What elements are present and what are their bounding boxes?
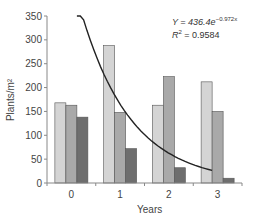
y-tick-label: 100	[25, 130, 42, 141]
bar	[126, 149, 137, 183]
bar	[55, 103, 66, 183]
bar	[163, 77, 174, 183]
bar	[174, 168, 185, 183]
x-axis: 0123	[47, 183, 242, 200]
y-tick-label: 0	[36, 178, 42, 189]
y-axis: 050100150200250300350	[25, 11, 47, 189]
eq-exponent: −0.972x	[216, 16, 238, 22]
y-axis-label: Plants/m²	[5, 78, 16, 121]
r2-value: = 0.9584	[182, 30, 220, 40]
y-tick-label: 200	[25, 82, 42, 93]
x-tick-label: 1	[117, 189, 123, 200]
bar	[77, 117, 88, 183]
x-tick-label: 3	[215, 189, 221, 200]
eq-prefix: Y = 436.4e	[172, 17, 216, 27]
y-tick-label: 300	[25, 34, 42, 45]
bar	[104, 46, 115, 183]
bar	[115, 112, 126, 183]
x-tick-label: 2	[166, 189, 172, 200]
x-tick-label: 0	[69, 189, 75, 200]
trendline-equation: Y = 436.4e−0.972x	[172, 16, 237, 27]
bar	[223, 178, 234, 183]
y-tick-label: 150	[25, 106, 42, 117]
bars	[55, 46, 234, 183]
bar	[152, 105, 163, 183]
bar	[66, 105, 77, 183]
x-axis-label: Years	[137, 204, 162, 215]
y-tick-label: 350	[25, 11, 42, 22]
bar-chart: 050100150200250300350 0123 Plants/m² Yea…	[0, 0, 263, 219]
r-squared: R2 = 0.9584	[172, 29, 220, 40]
y-tick-label: 250	[25, 58, 42, 69]
y-tick-label: 50	[31, 154, 43, 165]
bar	[212, 111, 223, 183]
